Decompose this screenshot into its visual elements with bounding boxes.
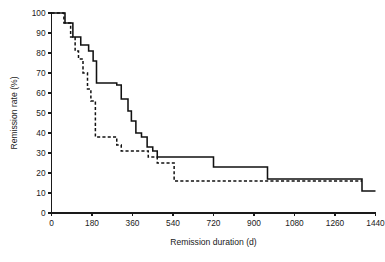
y-tick-label: 0 <box>41 208 46 218</box>
series-solid-curve <box>52 13 376 191</box>
y-tick-label: 40 <box>36 128 46 138</box>
y-tick-label: 10 <box>36 188 46 198</box>
x-tick-label: 540 <box>166 218 180 228</box>
y-axis-tick-labels: 0102030405060708090100 <box>32 8 46 218</box>
x-axis-title: Remission duration (d) <box>170 237 257 247</box>
x-tick-label: 1440 <box>366 218 385 228</box>
y-tick-label: 30 <box>36 148 46 158</box>
chart-figure: 0102030405060708090100 01803605407209001… <box>0 0 385 262</box>
x-tick-label: 900 <box>247 218 261 228</box>
y-tick-label: 80 <box>36 48 46 58</box>
x-tick-label: 720 <box>207 218 221 228</box>
y-tick-label: 20 <box>36 168 46 178</box>
kaplan-meier-plot: 0102030405060708090100 01803605407209001… <box>0 0 385 262</box>
y-tick-label: 70 <box>36 68 46 78</box>
y-tick-label: 60 <box>36 88 46 98</box>
y-tick-label: 90 <box>36 28 46 38</box>
y-tick-label: 50 <box>36 108 46 118</box>
x-tick-label: 180 <box>85 218 99 228</box>
y-axis-title: Remission rate (%) <box>9 76 19 149</box>
series-dashed-curve <box>52 13 363 181</box>
y-tick-label: 100 <box>32 8 46 18</box>
x-tick-label: 360 <box>126 218 140 228</box>
x-tick-label: 0 <box>49 218 54 228</box>
x-axis-tick-labels: 0180360540720900108012601440 <box>49 218 385 228</box>
x-tick-label: 1080 <box>285 218 304 228</box>
x-tick-label: 1260 <box>326 218 345 228</box>
